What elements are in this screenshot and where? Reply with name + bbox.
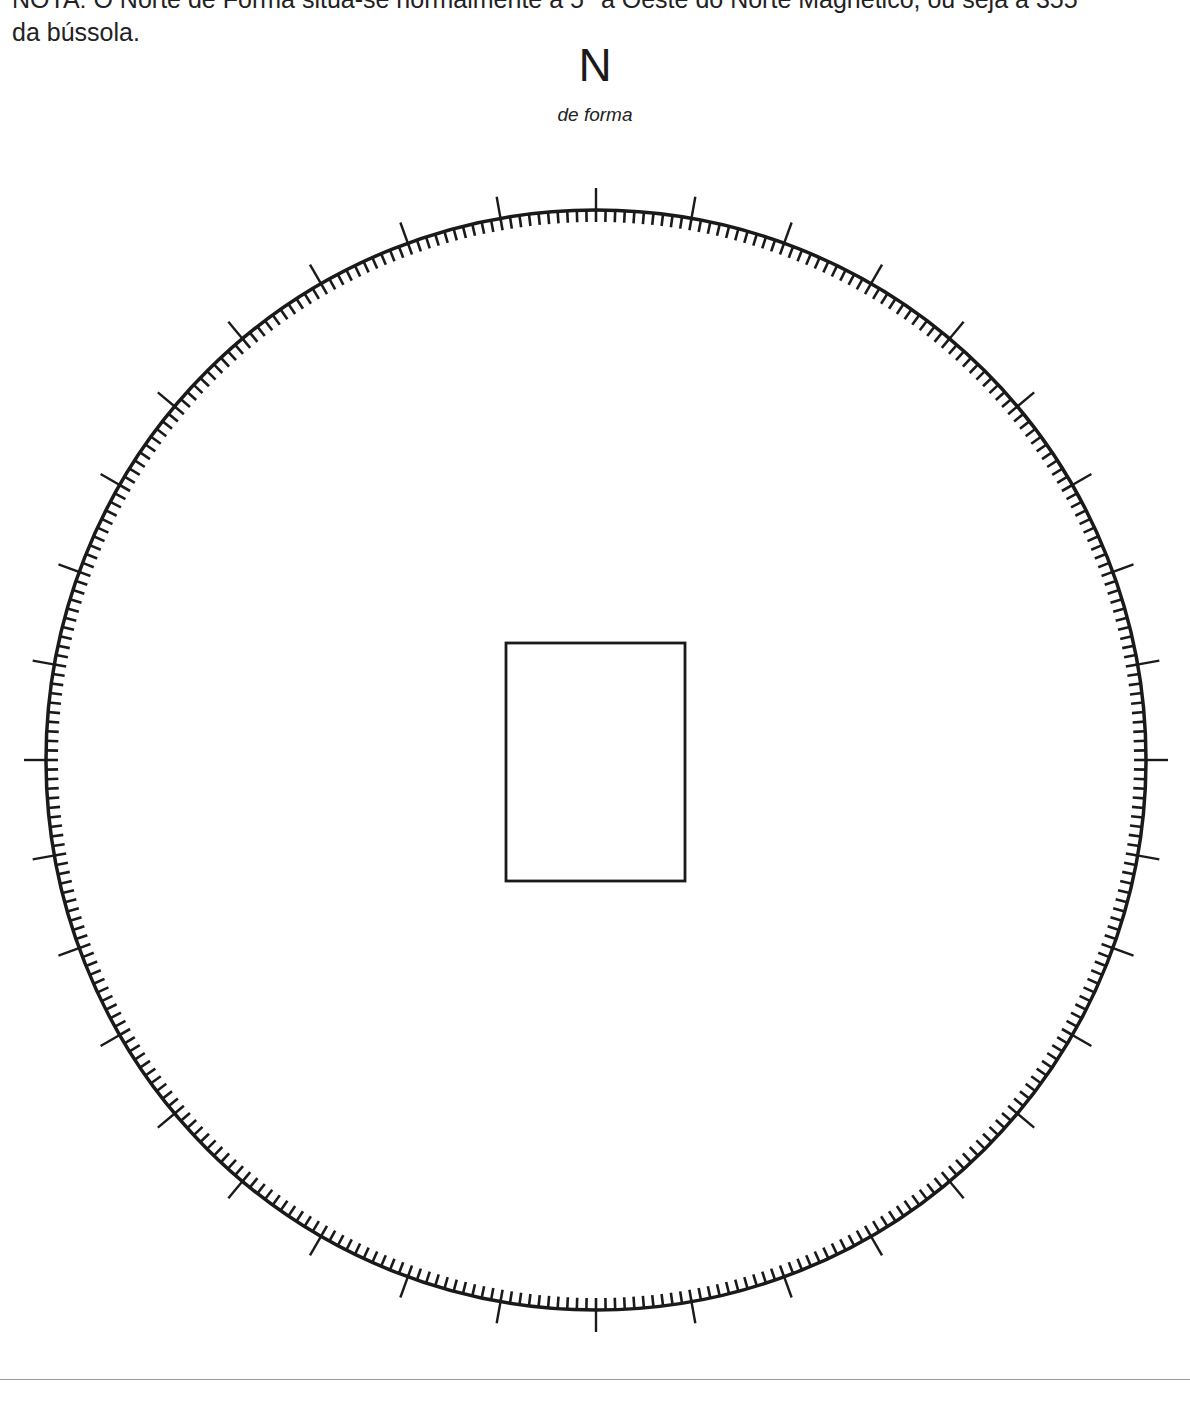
minor-tick (257, 327, 264, 336)
minor-tick (1067, 493, 1077, 499)
minor-tick (643, 1296, 644, 1308)
minor-tick (699, 220, 701, 232)
minor-tick (169, 414, 178, 422)
major-ten-degree-ticks (24, 188, 1168, 1332)
minor-tick (1014, 414, 1023, 422)
minor-tick (444, 231, 447, 243)
minor-tick (857, 279, 863, 289)
minor-tick (927, 327, 934, 336)
major-tick (158, 1112, 176, 1127)
minor-tick (1120, 636, 1132, 639)
minor-tick (912, 1195, 919, 1205)
minor-tick (62, 890, 74, 893)
minor-tick (1067, 1021, 1077, 1027)
minor-tick (976, 371, 984, 379)
minor-tick (1026, 1084, 1036, 1091)
minor-tick (771, 240, 775, 251)
minor-tick (98, 987, 109, 992)
minor-tick (390, 1259, 394, 1270)
minor-tick (1057, 1037, 1067, 1043)
minor-tick (1071, 1013, 1082, 1019)
minor-tick (832, 266, 837, 277)
minor-tick (463, 226, 466, 238)
minor-tick (873, 1221, 879, 1231)
minor-tick (1133, 731, 1145, 732)
minor-tick (50, 826, 62, 827)
minor-tick (86, 554, 97, 558)
minor-tick (169, 1099, 178, 1107)
minor-tick (228, 1160, 236, 1169)
minor-tick (1113, 908, 1125, 911)
minor-tick (735, 1280, 738, 1292)
minor-tick (1108, 926, 1119, 930)
minor-tick (634, 1297, 635, 1309)
minor-tick (1042, 1061, 1052, 1068)
minor-tick (110, 1013, 121, 1019)
major-tick (400, 1275, 408, 1298)
major-tick (948, 1180, 963, 1198)
minor-tick (135, 1053, 145, 1060)
minor-tick (873, 289, 879, 299)
minor-tick (83, 563, 94, 567)
minor-tick (67, 908, 79, 911)
minor-tick (313, 1221, 319, 1231)
minor-tick (296, 299, 303, 309)
minor-tick (151, 1076, 161, 1083)
major-tick (1111, 564, 1134, 572)
major-tick (1136, 661, 1160, 665)
minor-tick (145, 1069, 155, 1076)
minor-tick (73, 590, 84, 594)
minor-tick (1002, 399, 1011, 407)
minor-tick (744, 231, 747, 243)
minor-tick (1087, 979, 1098, 984)
minor-tick (60, 636, 72, 639)
minor-tick (1129, 683, 1141, 685)
minor-tick (558, 211, 559, 223)
major-tick (870, 1235, 882, 1256)
minor-tick (47, 788, 59, 789)
minor-tick (338, 274, 344, 285)
major-tick (59, 947, 82, 955)
minor-tick (67, 608, 79, 611)
minor-tick (491, 220, 493, 232)
minor-tick (426, 1272, 430, 1283)
minor-tick (771, 1269, 775, 1280)
minor-tick (221, 1153, 229, 1162)
minor-tick (1020, 421, 1029, 428)
minor-tick (65, 899, 77, 902)
minor-tick (250, 333, 258, 342)
minor-tick (1127, 844, 1139, 846)
minor-tick (90, 545, 101, 550)
minor-tick (426, 237, 430, 248)
minor-tick (1087, 536, 1098, 541)
minor-tick (90, 970, 101, 975)
minor-tick (735, 229, 738, 241)
minor-tick (381, 254, 386, 265)
minor-tick (181, 1113, 190, 1121)
minor-tick (288, 1206, 295, 1216)
minor-tick (1047, 460, 1057, 467)
minor-tick (110, 502, 121, 508)
major-tick (228, 322, 243, 340)
minor-tick (529, 1294, 530, 1306)
minor-tick (708, 1286, 710, 1298)
minor-tick (1084, 987, 1095, 992)
minor-tick (454, 229, 457, 241)
minor-tick (47, 798, 59, 799)
minor-tick (789, 247, 793, 258)
minor-tick (51, 683, 63, 685)
minor-tick (187, 1120, 196, 1128)
minor-tick (823, 1248, 828, 1259)
major-tick (400, 223, 408, 246)
minor-tick (539, 1295, 540, 1307)
minor-tick (482, 222, 484, 234)
minor-tick (1037, 445, 1047, 452)
minor-tick (1002, 1113, 1011, 1121)
minor-tick (671, 1293, 673, 1305)
minor-tick (296, 1211, 303, 1221)
minor-tick (102, 996, 113, 1001)
minor-tick (762, 237, 766, 248)
minor-tick (1124, 863, 1136, 865)
minor-tick (1071, 502, 1082, 508)
minor-tick (53, 674, 65, 676)
